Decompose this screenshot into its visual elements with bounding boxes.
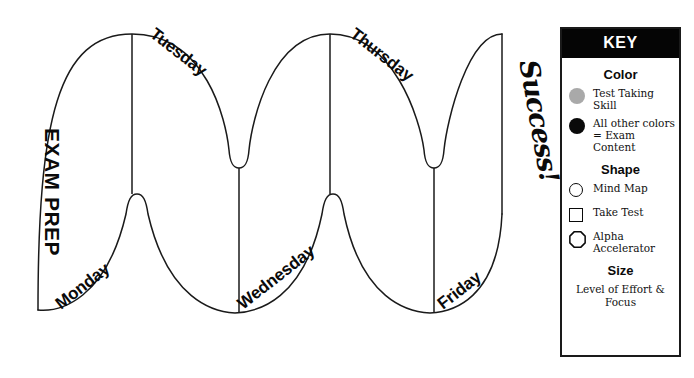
legend-row-alpha-accelerator: Alpha Accelerator: [562, 230, 679, 254]
open-octagon-icon: [569, 231, 586, 248]
legend-header-title: KEY: [562, 29, 679, 58]
exam-prep-label: EXAM PREP: [40, 128, 64, 256]
legend-label-alpha-accelerator: Alpha Accelerator: [593, 230, 675, 254]
legend-row-test-taking-skill: Test Taking Skill: [562, 87, 679, 111]
legend-row-exam-content: All other colors = Exam Content: [562, 117, 679, 153]
diagram-canvas: EXAM PREP Monday Tuesday Wednesday Thurs…: [0, 0, 694, 378]
legend-section-title-shape: Shape: [562, 162, 679, 177]
legend-label-exam-content: All other colors = Exam Content: [593, 117, 675, 153]
legend-row-take-test: Take Test: [562, 206, 679, 224]
legend-section-title-size: Size: [562, 263, 679, 278]
legend-label-mind-map: Mind Map: [593, 182, 648, 194]
legend-panel: KEY Color Test Taking Skill All other co…: [560, 27, 681, 357]
legend-label-take-test: Take Test: [593, 206, 643, 218]
legend-label-test-taking-skill: Test Taking Skill: [593, 87, 675, 111]
filled-black-circle-icon: [569, 118, 586, 135]
open-circle-icon: [569, 183, 586, 200]
filled-gray-circle-icon: [569, 88, 586, 105]
legend-section-title-color: Color: [562, 67, 679, 82]
legend-row-mind-map: Mind Map: [562, 182, 679, 200]
wave-curve-svg: [0, 0, 552, 378]
exam-prep-wave-diagram: EXAM PREP Monday Tuesday Wednesday Thurs…: [0, 0, 552, 378]
legend-note-size: Level of Effort & Focus: [562, 283, 679, 309]
open-square-icon: [569, 207, 586, 224]
